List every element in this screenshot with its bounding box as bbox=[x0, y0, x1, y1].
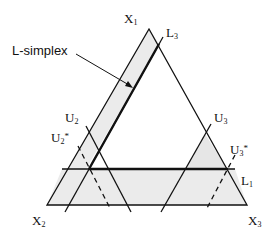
line-l3-label: L3 bbox=[166, 26, 178, 41]
l-simplex-label: L-simplex bbox=[12, 43, 68, 58]
annotation-arrow bbox=[76, 54, 129, 85]
vertex-x3-label: X3 bbox=[248, 214, 261, 229]
vertex-x2-label: X2 bbox=[32, 214, 45, 229]
line-u2-label: U2 bbox=[65, 111, 78, 126]
line-l1-label: L1 bbox=[241, 174, 253, 189]
line-u3-star-label: U3* bbox=[230, 143, 248, 158]
simplex-diagram: L-simplex X1 X2 X3 L3 L1 U2 U2* U3 U3* bbox=[0, 0, 273, 237]
shaded-triangle-u3 bbox=[185, 134, 228, 170]
line-u3-label: U3 bbox=[214, 111, 227, 126]
line-u2-star-label: U2* bbox=[51, 131, 69, 146]
vertex-x1-label: X1 bbox=[124, 12, 137, 27]
shaded-band-bottom bbox=[47, 169, 247, 205]
diagram-graphics bbox=[0, 0, 273, 237]
l3-line-thick bbox=[89, 44, 159, 169]
